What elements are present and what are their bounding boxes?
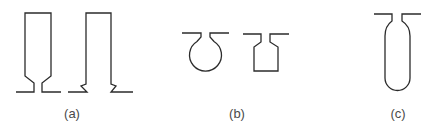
panel-c-shape-capsule <box>374 14 421 91</box>
panel-label-a: (a) <box>52 106 92 122</box>
panel-a-shape-dovetail <box>68 13 133 92</box>
panel-b-shape-rectangle <box>243 34 289 71</box>
panel-label-c: (c) <box>378 106 418 122</box>
panel-label-b: (b) <box>217 106 257 122</box>
groove-profiles-diagram: (a) (b) (c) <box>0 0 431 133</box>
panel-b-shape-circle <box>182 33 229 71</box>
panel-a-shape-beveled-neck <box>16 13 61 92</box>
